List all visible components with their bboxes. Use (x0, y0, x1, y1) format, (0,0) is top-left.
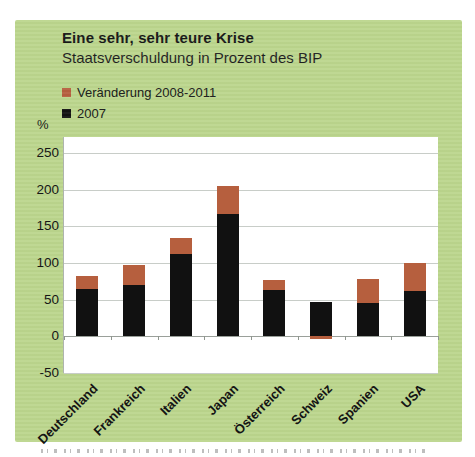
x-category-label-2: Italien (157, 381, 194, 418)
chart-panel: Eine sehr, sehr teure Krise Staatsversch… (15, 20, 462, 442)
chart-subtitle: Staatsverschuldung in Prozent des BIP (62, 49, 322, 66)
y-tick-label-250: 250 (15, 146, 59, 160)
bar-2007-0 (76, 289, 98, 337)
x-axis-tick (64, 336, 65, 340)
legend-swatch-2007-icon (62, 109, 71, 118)
chart-legend: Veränderung 2008-2011 2007 (62, 82, 216, 124)
y-axis-tick-labels: -50050100150200250 (15, 137, 59, 373)
y-tick-label-200: 200 (15, 183, 59, 197)
x-axis-tick (204, 336, 205, 340)
bar-2007-2 (170, 254, 192, 337)
y-axis-unit-label: % (37, 117, 49, 132)
x-category-label-0: Deutschland (35, 381, 101, 447)
chart-title: Eine sehr, sehr teure Krise (62, 29, 254, 46)
x-category-label-7: USA (398, 381, 428, 411)
gridline-250 (64, 153, 438, 154)
bar-2007-7 (404, 291, 426, 336)
x-category-label-6: Spanien (335, 381, 381, 427)
cropped-caption-fragment (41, 449, 429, 453)
screenshot-root: Eine sehr, sehr teure Krise Staatsversch… (0, 0, 475, 457)
bar-change-7 (404, 263, 426, 291)
bar-change-4 (263, 280, 285, 290)
legend-item-2007: 2007 (62, 103, 216, 124)
y-tick-label--50: -50 (15, 366, 59, 380)
gridline-200 (64, 190, 438, 191)
x-axis-tick (438, 336, 439, 340)
x-category-label-5: Schweiz (288, 381, 335, 428)
bar-change-5 (310, 336, 332, 338)
x-axis-tick (298, 336, 299, 340)
bar-change-3 (217, 186, 239, 214)
x-axis-category-labels: DeutschlandFrankreichItalienJapanÖsterre… (63, 379, 437, 439)
x-axis-tick (158, 336, 159, 340)
bar-2007-5 (310, 302, 332, 336)
legend-item-change: Veränderung 2008-2011 (62, 82, 216, 103)
plot-area (63, 137, 438, 373)
bar-change-1 (123, 265, 145, 285)
gridline--50 (64, 373, 438, 374)
legend-label-change: Veränderung 2008-2011 (77, 85, 216, 100)
x-axis-tick (391, 336, 392, 340)
legend-label-2007: 2007 (77, 106, 106, 121)
y-tick-label-100: 100 (15, 256, 59, 270)
bar-2007-4 (263, 290, 285, 336)
x-category-label-3: Japan (204, 381, 241, 418)
bar-change-2 (170, 238, 192, 253)
bar-2007-1 (123, 285, 145, 336)
y-tick-label-0: 0 (15, 329, 59, 343)
gridline-50 (64, 300, 438, 301)
bar-2007-3 (217, 214, 239, 336)
bar-2007-6 (357, 303, 379, 336)
x-axis-tick (345, 336, 346, 340)
y-tick-label-150: 150 (15, 219, 59, 233)
gridline-100 (64, 263, 438, 264)
legend-swatch-change-icon (62, 88, 71, 97)
gridline-150 (64, 226, 438, 227)
bar-change-0 (76, 276, 98, 288)
bar-change-6 (357, 279, 379, 303)
x-axis-tick (251, 336, 252, 340)
y-tick-label-50: 50 (15, 293, 59, 307)
x-axis-tick (111, 336, 112, 340)
